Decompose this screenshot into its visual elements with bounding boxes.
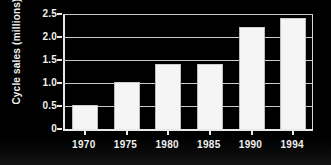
y-axis-tick-mark xyxy=(57,13,62,15)
x-axis-tick-label: 1980 xyxy=(155,139,178,150)
x-axis-line xyxy=(63,129,313,131)
bar-chart-figure: Cycle sales (millions) 00.51.01.52.02.5 … xyxy=(0,0,331,165)
x-axis-tick-mark xyxy=(251,130,253,135)
x-axis-tick-mark xyxy=(167,130,169,135)
y-axis-tick-mark xyxy=(57,105,62,107)
x-axis-tick-label: 1990 xyxy=(239,139,262,150)
gridline xyxy=(63,106,313,107)
gridline xyxy=(63,60,313,61)
y-axis-tick-label: 0.5 xyxy=(42,100,57,111)
x-axis-tick-label: 1975 xyxy=(114,139,137,150)
x-axis-tick-label: 1985 xyxy=(197,139,220,150)
y-axis-tick-label: 2.5 xyxy=(42,8,57,19)
y-axis-tick-mark xyxy=(57,128,62,130)
y-axis-tick-mark xyxy=(57,59,62,61)
y-axis-tick-labels: 00.51.01.52.02.5 xyxy=(24,0,57,165)
bar xyxy=(197,64,223,129)
bar xyxy=(72,105,98,129)
plot-area xyxy=(63,14,313,130)
bar xyxy=(280,18,306,129)
bar xyxy=(155,64,181,129)
y-axis-tick-mark xyxy=(57,82,62,84)
y-axis-tick-label: 1.0 xyxy=(42,77,57,88)
y-axis-tick-mark xyxy=(57,36,62,38)
bar xyxy=(114,82,140,129)
x-axis-tick-label: 1970 xyxy=(72,139,95,150)
x-axis-tick-mark xyxy=(84,130,86,135)
gridline xyxy=(63,14,313,15)
x-axis-tick-mark xyxy=(292,130,294,135)
y-axis-tick-label: 1.5 xyxy=(42,54,57,65)
gridline xyxy=(63,83,313,84)
y-axis-tick-label: 2.0 xyxy=(42,31,57,42)
y-axis-line xyxy=(63,14,65,131)
bar xyxy=(239,27,265,129)
x-axis-tick-mark xyxy=(126,130,128,135)
gridline xyxy=(63,37,313,38)
y-axis-title: Cycle sales (millions) xyxy=(11,0,22,107)
plot-frame-right xyxy=(312,14,313,130)
x-axis-tick-mark xyxy=(209,130,211,135)
x-axis-tick-label: 1994 xyxy=(280,139,303,150)
